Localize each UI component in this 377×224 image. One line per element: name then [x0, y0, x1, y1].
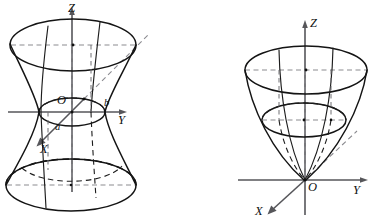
left-origin-label: O — [57, 93, 66, 107]
right-origin-label: O — [308, 180, 317, 194]
left-origin-dot — [71, 111, 74, 114]
left-semi-axis-a-label: a — [55, 121, 60, 132]
quadric-surfaces-figure: Z Y X O a b — [0, 0, 377, 224]
right-z-axis-label: Z — [310, 16, 318, 30]
left-oblique-node-dot — [83, 98, 86, 101]
right-silhouette-left — [245, 70, 304, 180]
right-figure-group: Z Y X O — [238, 16, 368, 218]
left-y-axis-label: Y — [118, 113, 127, 127]
left-y-axis — [8, 109, 127, 115]
right-vertex-dot — [304, 179, 307, 182]
right-z-axis-arrowhead — [302, 20, 308, 28]
right-mid-center-dot — [303, 119, 306, 122]
right-x-axis-line — [272, 180, 305, 210]
left-semi-axis-b-label: b — [104, 97, 109, 108]
left-meridian-front-right-upper — [91, 22, 100, 112]
right-mid-right-node-dot — [330, 119, 333, 122]
left-figure-group: Z Y X O a b — [6, 1, 148, 211]
right-x-axis — [268, 131, 358, 215]
right-top-center-dot — [305, 69, 308, 72]
left-z-axis-label: Z — [68, 1, 76, 15]
right-y-axis-label: Y — [353, 183, 362, 197]
right-silhouette-right — [306, 70, 367, 180]
right-y-axis-arrowhead — [360, 177, 368, 183]
right-meridian-front-right — [305, 48, 333, 180]
left-bottom-center-dot — [70, 184, 73, 187]
right-x-axis-label: X — [254, 204, 264, 218]
right-mid-section-hidden-arc — [262, 103, 346, 120]
left-x-axis-label: X — [39, 142, 49, 156]
left-top-center-dot — [72, 44, 75, 47]
